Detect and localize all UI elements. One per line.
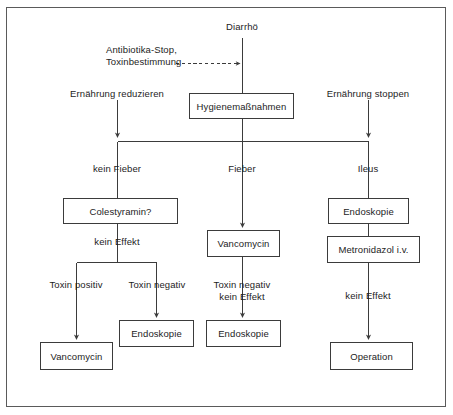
annotation-line-2: Toxinbestimmung [106, 56, 174, 68]
annotation-line-1: Antibiotika-Stop, [106, 44, 174, 56]
branch-label-ernaehrung-reduzieren: Ernährung reduzieren [70, 88, 164, 100]
node-label-diarrhoe: Diarrhö [226, 21, 258, 33]
node-vancomycin-toxin-positiv[interactable]: Vancomycin [40, 342, 113, 370]
center-toxin-line-2: kein Effekt [214, 291, 271, 303]
diagram-canvas: Diarrhö Antibiotika-Stop, Toxinbestimmun… [0, 0, 453, 415]
branch-label-ernaehrung-stoppen: Ernährung stoppen [327, 88, 410, 100]
node-metronidazol[interactable]: Metronidazol i.v. [327, 236, 420, 263]
center-toxin-line-1: Toxin negativ [214, 279, 271, 291]
branch-label-toxin-positiv: Toxin positiv [49, 279, 102, 291]
node-endoskopie-ileus[interactable]: Endoskopie [328, 198, 409, 224]
branch-label-kein-effekt-left: kein Effekt [94, 236, 139, 248]
node-endoskopie-toxin-negativ[interactable]: Endoskopie [119, 320, 194, 347]
branch-label-toxin-negativ: Toxin negativ [129, 279, 186, 291]
branch-label-ileus: Ileus [358, 163, 379, 175]
node-endoskopie-center[interactable]: Endoskopie [206, 320, 281, 347]
branch-label-kein-fieber: kein Fieber [93, 163, 141, 175]
node-vancomycin-fieber[interactable]: Vancomycin [207, 230, 280, 257]
branch-label-kein-effekt-right: kein Effekt [345, 290, 390, 302]
branch-label-toxin-negativ-kein-effekt: Toxin negativ kein Effekt [214, 279, 271, 302]
node-operation[interactable]: Operation [330, 342, 413, 370]
node-hygienemassnahmen[interactable]: Hygienemaßnahmen [189, 93, 294, 119]
node-colestyramin[interactable]: Colestyramin? [63, 198, 178, 224]
annotation-antibiotika-stop: Antibiotika-Stop, Toxinbestimmung [106, 44, 174, 67]
branch-label-fieber: Fieber [228, 163, 256, 175]
